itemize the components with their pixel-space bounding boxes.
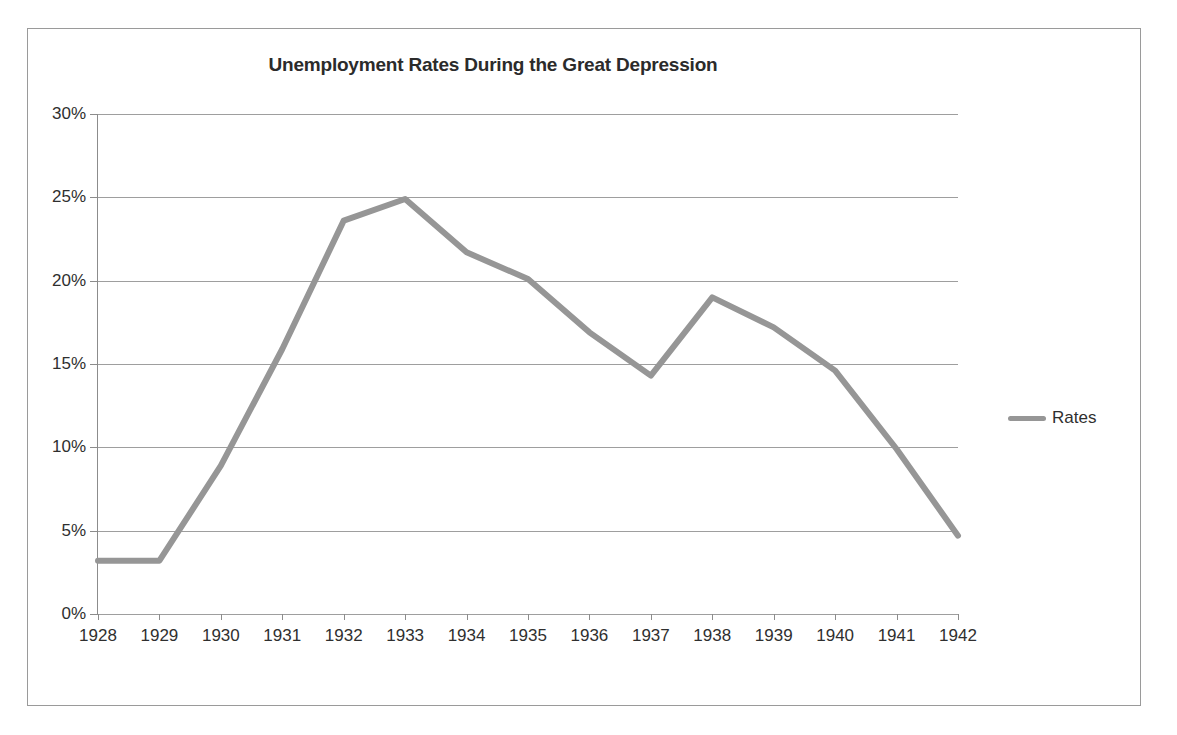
y-tick-mark-15%: [90, 364, 97, 365]
x-tick-mark-1937: [651, 614, 652, 620]
y-tick-label-5%: 5%: [61, 521, 86, 541]
x-tick-label-1929: 1929: [141, 626, 179, 646]
x-tick-mark-1935: [528, 614, 529, 620]
y-tick-label-10%: 10%: [52, 437, 86, 457]
legend-swatch-rates: [1008, 416, 1046, 421]
series-polyline-rates: [98, 199, 958, 561]
x-tick-mark-1928: [98, 614, 99, 620]
x-tick-label-1942: 1942: [939, 626, 977, 646]
y-tick-label-20%: 20%: [52, 271, 86, 291]
x-tick-mark-1938: [712, 614, 713, 620]
x-tick-label-1936: 1936: [571, 626, 609, 646]
x-tick-mark-1932: [344, 614, 345, 620]
y-tick-label-0%: 0%: [61, 604, 86, 624]
y-tick-mark-10%: [90, 447, 97, 448]
y-tick-mark-0%: [90, 614, 97, 615]
legend: Rates: [1008, 408, 1096, 428]
x-tick-mark-1942: [958, 614, 959, 620]
legend-label-rates: Rates: [1052, 408, 1096, 428]
x-tick-mark-1936: [589, 614, 590, 620]
x-tick-mark-1931: [282, 614, 283, 620]
x-tick-mark-1934: [467, 614, 468, 620]
x-tick-mark-1940: [835, 614, 836, 620]
x-tick-label-1931: 1931: [263, 626, 301, 646]
chart-title: Unemployment Rates During the Great Depr…: [28, 54, 958, 76]
x-tick-label-1937: 1937: [632, 626, 670, 646]
y-tick-mark-30%: [90, 114, 97, 115]
x-tick-label-1930: 1930: [202, 626, 240, 646]
y-tick-mark-25%: [90, 197, 97, 198]
x-tick-label-1932: 1932: [325, 626, 363, 646]
x-tick-mark-1939: [774, 614, 775, 620]
x-tick-label-1934: 1934: [448, 626, 486, 646]
x-tick-label-1941: 1941: [878, 626, 916, 646]
y-axis-labels: 0%5%10%15%20%25%30%: [28, 114, 86, 614]
x-tick-label-1938: 1938: [693, 626, 731, 646]
y-tick-mark-5%: [90, 531, 97, 532]
x-tick-mark-1941: [897, 614, 898, 620]
y-tick-mark-20%: [90, 281, 97, 282]
x-tick-label-1935: 1935: [509, 626, 547, 646]
chart-frame: Unemployment Rates During the Great Depr…: [27, 28, 1141, 706]
x-tick-label-1933: 1933: [386, 626, 424, 646]
x-tick-mark-1929: [159, 614, 160, 620]
x-tick-mark-1930: [221, 614, 222, 620]
x-tick-label-1939: 1939: [755, 626, 793, 646]
y-tick-label-30%: 30%: [52, 104, 86, 124]
y-tick-label-15%: 15%: [52, 354, 86, 374]
series-line-rates: [98, 114, 958, 614]
x-tick-label-1940: 1940: [816, 626, 854, 646]
y-tick-label-25%: 25%: [52, 187, 86, 207]
plot-area: 1928192919301931193219331934193519361937…: [98, 114, 958, 614]
x-tick-mark-1933: [405, 614, 406, 620]
x-tick-label-1928: 1928: [79, 626, 117, 646]
